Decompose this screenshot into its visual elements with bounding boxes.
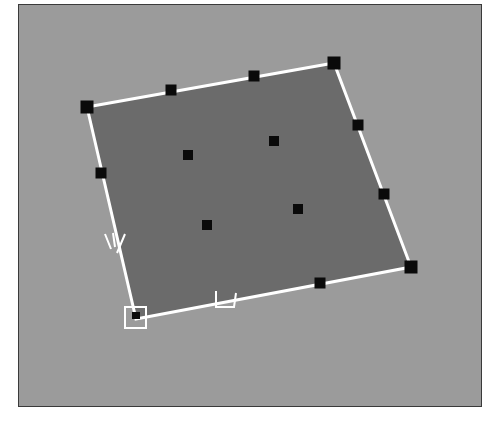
edge-handle-left-1[interactable] [96,168,107,179]
edge-handle-bottom-1[interactable] [315,278,326,289]
edge-handle-right-1[interactable] [353,120,364,131]
corner-handle-top-right[interactable] [328,57,341,70]
patch-canvas[interactable] [19,5,483,408]
interior-handle-inner-4[interactable] [202,220,212,230]
3d-viewport[interactable] [18,4,482,407]
corner-handle-bottom-right[interactable] [405,261,418,274]
edge-handle-top-1[interactable] [166,85,177,96]
edge-handle-right-2[interactable] [379,189,390,200]
origin-handle[interactable] [132,312,140,319]
corner-handle-top-left[interactable] [81,101,94,114]
interior-handle-inner-1[interactable] [183,150,193,160]
surface-patch[interactable] [87,63,411,319]
interior-handle-inner-3[interactable] [293,204,303,214]
interior-handle-inner-2[interactable] [269,136,279,146]
edge-handle-top-2[interactable] [249,71,260,82]
